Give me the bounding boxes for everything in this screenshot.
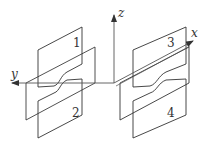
axes: [12, 15, 193, 86]
x-axis-double: [116, 46, 190, 86]
x-axis-label: x: [191, 26, 198, 40]
y-axis-label: y: [10, 67, 18, 81]
x-axis: [114, 41, 193, 83]
plate-3-label: 3: [167, 36, 175, 50]
diagram-canvas: y z x 1 2 3 4: [0, 0, 209, 148]
right-plate-group: [120, 27, 189, 138]
z-axis-label: z: [117, 6, 125, 20]
plate-4-label: 4: [167, 106, 175, 120]
plate-3: [133, 27, 186, 87]
plate-2-label: 2: [72, 106, 80, 120]
plate-1-label: 1: [73, 36, 81, 50]
left-front-plate: [26, 47, 95, 120]
left-plate-group: [26, 27, 95, 138]
